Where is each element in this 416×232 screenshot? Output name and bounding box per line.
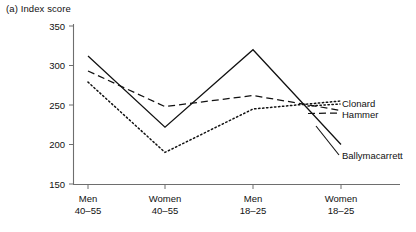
x-tick-label-3-top: Men: [244, 193, 262, 204]
y-axis-ticks: [69, 26, 74, 184]
legend-label-clonard: Clonard: [342, 98, 375, 109]
y-tick-label-200: 200: [49, 139, 65, 150]
x-tick-label-3-bottom: 18–25: [240, 205, 266, 216]
legend-leader-hammer: [308, 113, 340, 114]
figure-container: (a) Index score 350 300 250 200 150 Men …: [0, 0, 416, 232]
x-tick-label-4-bottom: 18–25: [328, 205, 354, 216]
x-axis-ticks: [88, 185, 341, 190]
y-tick-label-150: 150: [49, 179, 65, 190]
legend-label-ballymacarrett: Ballymacarrett: [342, 150, 403, 161]
legend-leaders: [308, 104, 340, 155]
legend-leader-clonard: [308, 104, 340, 106]
legend-label-hammer: Hammer: [342, 109, 378, 120]
x-tick-label-2-top: Women: [149, 193, 182, 204]
series-line-ballymacarrett: [88, 50, 341, 145]
x-tick-label-4-top: Women: [325, 193, 358, 204]
x-tick-label-1-bottom: 40–55: [75, 205, 101, 216]
y-tick-label-300: 300: [49, 60, 65, 71]
series-line-clonard: [88, 82, 341, 152]
y-tick-label-350: 350: [49, 21, 65, 32]
x-tick-label-1-top: Men: [79, 193, 97, 204]
y-tick-label-250: 250: [49, 100, 65, 111]
chart-canvas: 350 300 250 200 150 Men 40–55 Women 40–5…: [0, 0, 416, 232]
x-tick-label-2-bottom: 40–55: [152, 205, 178, 216]
